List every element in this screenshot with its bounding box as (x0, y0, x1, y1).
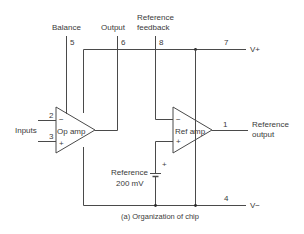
junction-dot (154, 204, 157, 207)
ref-amp-minus-sign: − (176, 115, 181, 124)
pin-3: 3 (49, 132, 54, 141)
pin-1: 1 (223, 120, 228, 129)
pin-4: 4 (224, 194, 229, 203)
reference-feedback-label-1: Reference (137, 13, 174, 22)
chip-organization-diagram: Balance Output Reference feedback 5 6 8 … (0, 0, 304, 234)
op-amp-label: Op amp (57, 127, 86, 136)
pin-8: 8 (159, 38, 164, 47)
op-amp-minus-sign: − (59, 115, 64, 124)
inputs-label: Inputs (15, 126, 37, 135)
reference-source-label-1: Reference (111, 168, 148, 177)
reference-source-label-2: 200 mV (116, 179, 144, 188)
junction-dot (194, 204, 197, 207)
output-label: Output (101, 23, 126, 32)
v-plus-label: V+ (250, 45, 260, 54)
pin-2: 2 (49, 111, 54, 120)
ref-amp-label: Ref amp (175, 127, 206, 136)
pin-6: 6 (121, 38, 126, 47)
ref-amp-plus-sign: + (176, 137, 181, 146)
reference-output-label-1: Reference (252, 120, 289, 129)
balance-label: Balance (52, 23, 81, 32)
op-amp-plus-sign: + (59, 139, 64, 148)
v-minus-label: V− (250, 201, 260, 210)
reference-output-label-2: output (252, 130, 275, 139)
pin-7: 7 (224, 38, 229, 47)
reference-feedback-label-2: feedback (137, 23, 170, 32)
pin-5: 5 (70, 38, 75, 47)
figure-caption: (a) Organization of chip (121, 212, 199, 221)
battery-plus-sign: + (162, 160, 167, 169)
